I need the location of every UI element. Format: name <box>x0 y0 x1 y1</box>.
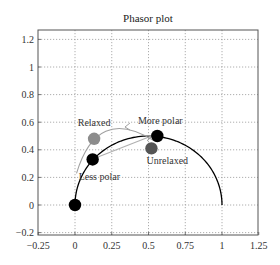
y-tick-label: 0.4 <box>22 144 35 155</box>
chart-title: Phasor plot <box>123 12 173 24</box>
x-tick-label: 0.5 <box>142 240 155 251</box>
y-tick-label: 0.2 <box>22 172 35 183</box>
y-tick-label: −0.2 <box>16 227 34 238</box>
point-label: More polar <box>138 115 183 126</box>
y-tick-label: 1 <box>29 62 34 73</box>
x-tick-label: 0 <box>73 240 78 251</box>
y-tick-label: 0 <box>29 200 34 211</box>
data-point-relaxed <box>88 133 100 145</box>
point-labels: Less polarMore polarRelaxedUnrelaxed <box>78 115 188 182</box>
shift-arrow <box>97 136 152 157</box>
y-tick-label: 1.2 <box>22 34 35 45</box>
y-tick-label: 0.8 <box>22 89 35 100</box>
y-axis-ticks: −0.200.20.40.60.811.2 <box>16 34 41 238</box>
x-tick-label: −0.25 <box>27 240 50 251</box>
y-tick-label: 0.6 <box>22 117 35 128</box>
data-point-unrelaxed <box>145 142 157 154</box>
data-point-more-polar <box>151 130 163 142</box>
x-tick-label: 0.25 <box>103 240 121 251</box>
point-label: Unrelaxed <box>146 155 188 166</box>
phasor-chart: Phasor plot −0.2500.250.50.7511.25 −0.20… <box>0 0 280 265</box>
x-tick-label: 0.75 <box>177 240 195 251</box>
data-point-less-polar <box>86 153 98 165</box>
data-point-origin <box>69 199 81 211</box>
x-tick-label: 1.25 <box>250 240 268 251</box>
point-label: Relaxed <box>78 117 111 128</box>
x-tick-label: 1 <box>220 240 225 251</box>
point-label: Less polar <box>79 171 121 182</box>
